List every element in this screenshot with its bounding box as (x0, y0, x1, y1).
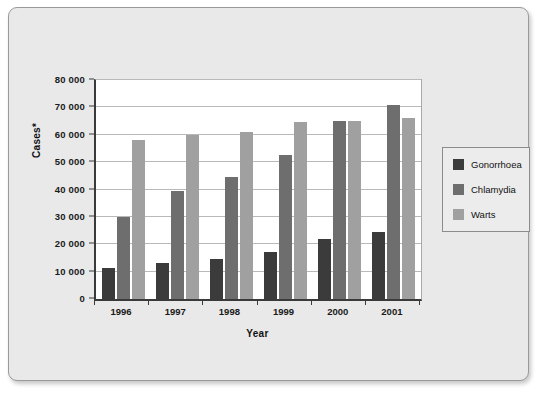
bar-warts-2001 (402, 118, 415, 299)
legend-item-chlamydia: Chlamydia (453, 184, 521, 195)
bar-chlamydia-1997 (171, 191, 184, 299)
y-axis-tick-label: 80 000 (55, 74, 85, 85)
x-axis-tick (148, 300, 149, 305)
x-axis-tick-label: 1997 (165, 306, 186, 317)
bar-chlamydia-1996 (117, 217, 130, 299)
x-axis-tick (202, 300, 203, 305)
bar-warts-2000 (348, 121, 361, 299)
bar-chlamydia-1999 (279, 155, 292, 299)
legend: GonorrhoeaChlamydiaWarts (442, 147, 530, 232)
chart-page: Cases* 010 00020 00030 00040 00050 00060… (0, 0, 557, 399)
y-axis-tick-label: 60 000 (55, 128, 85, 139)
x-axis-tick (94, 300, 95, 305)
y-axis-tick-label: 40 000 (55, 183, 85, 194)
y-axis-tick-label: 30 000 (55, 210, 85, 221)
legend-swatch-icon (453, 209, 464, 220)
y-axis-labels: 010 00020 00030 00040 00050 00060 00070 … (9, 79, 94, 298)
x-axis-tick (257, 300, 258, 305)
bar-warts-1998 (240, 132, 253, 299)
plot-area (94, 79, 422, 301)
y-axis-tick-label: 50 000 (55, 156, 85, 167)
bar-gonorrhoea-1996 (102, 268, 115, 299)
x-axis-tick (365, 300, 366, 305)
x-axis-tick (311, 300, 312, 305)
bar-warts-1996 (132, 140, 145, 299)
bar-gonorrhoea-2000 (318, 239, 331, 299)
legend-label: Chlamydia (471, 184, 516, 195)
x-axis-tick-label: 1998 (219, 306, 240, 317)
x-axis-title: Year (94, 328, 421, 339)
bar-group-container (96, 80, 421, 299)
x-axis-tick-label: 2000 (327, 306, 348, 317)
x-axis-tick-label: 2001 (381, 306, 402, 317)
legend-label: Gonorrhoea (471, 159, 522, 170)
chart-card: Cases* 010 00020 00030 00040 00050 00060… (8, 7, 529, 381)
bar-warts-1997 (186, 135, 199, 299)
bar-chlamydia-1998 (225, 177, 238, 299)
y-axis-tick-label: 0 (80, 293, 85, 304)
bar-warts-1999 (294, 122, 307, 299)
x-axis-labels: 199619971998199920002001 (94, 306, 421, 322)
bar-gonorrhoea-1997 (156, 263, 169, 299)
legend-item-gonorrhoea: Gonorrhoea (453, 159, 521, 170)
y-axis-tick-label: 20 000 (55, 238, 85, 249)
x-axis-tick (419, 300, 420, 305)
bar-gonorrhoea-2001 (372, 232, 385, 299)
x-axis-tick-label: 1999 (273, 306, 294, 317)
bar-chlamydia-2001 (387, 105, 400, 299)
y-axis-tick-label: 70 000 (55, 101, 85, 112)
legend-item-warts: Warts (453, 209, 521, 220)
bar-gonorrhoea-1999 (264, 252, 277, 299)
x-axis-tick-label: 1996 (111, 306, 132, 317)
legend-label: Warts (471, 209, 495, 220)
legend-swatch-icon (453, 184, 464, 195)
bar-chlamydia-2000 (333, 121, 346, 299)
bar-gonorrhoea-1998 (210, 259, 223, 299)
legend-swatch-icon (453, 159, 464, 170)
y-axis-tick-label: 10 000 (55, 265, 85, 276)
